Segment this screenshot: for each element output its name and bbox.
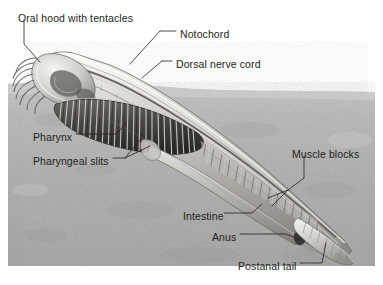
leader-oral-hood	[24, 20, 40, 62]
label-pharynx: Pharynx	[33, 131, 72, 143]
label-notochord: Notochord	[180, 28, 229, 40]
label-muscle-blocks: Muscle blocks	[292, 148, 359, 160]
label-postanal-tail: Postanal tail	[238, 260, 297, 272]
label-anus: Anus	[212, 231, 236, 243]
label-oral-hood-with-tentacles: Oral hood with tentacles	[18, 12, 133, 24]
lancelet-anatomy-figure: Oral hood with tentacles Notochord Dorsa…	[0, 0, 383, 285]
leader-dorsal-line	[142, 61, 162, 78]
label-dorsal-nerve-cord: Dorsal nerve cord	[176, 58, 261, 70]
label-intestine: Intestine	[183, 210, 224, 222]
label-pharyngeal-slits: Pharyngeal slits	[33, 155, 109, 167]
leader-notochord-line	[130, 31, 160, 64]
